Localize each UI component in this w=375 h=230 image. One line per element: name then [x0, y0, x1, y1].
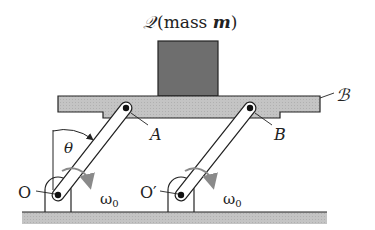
leader-platform: [320, 93, 334, 98]
mass-label: 𝒬(mass m): [143, 12, 237, 32]
pivot-o-prime-label: O′: [140, 183, 157, 202]
pin-b: [247, 105, 253, 111]
pin-o-prime: [178, 192, 184, 198]
omega-right-label: ω0: [223, 190, 242, 209]
pivot-o-label: O: [18, 183, 31, 202]
omega-left-label: ω0: [100, 190, 119, 209]
link-ob: [178, 105, 253, 198]
ground: [22, 212, 327, 224]
pin-a: [123, 105, 129, 111]
mass-block-q: [158, 41, 218, 96]
platform-b: [58, 96, 320, 118]
pin-a-label: A: [148, 125, 162, 144]
theta-label: θ: [64, 139, 73, 157]
pin-o: [55, 192, 61, 198]
parallel-linkage-diagram: 𝒬(mass m) ℬ A B O O′ θ ω0 ω0: [0, 0, 375, 230]
theta-arc: [53, 130, 92, 139]
pin-b-label: B: [273, 125, 286, 144]
platform-label: ℬ: [336, 85, 351, 105]
